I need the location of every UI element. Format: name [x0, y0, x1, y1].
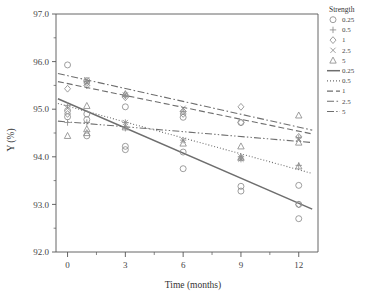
legend-label-line-0.5: 0.5	[342, 77, 351, 85]
legend-label-line-1: 1	[342, 87, 346, 95]
chart-container: 92.093.094.095.096.097.0 036912 Time (mo…	[0, 0, 385, 297]
legend-label-line-5: 5	[342, 108, 346, 116]
x-tick-label: 0	[65, 260, 70, 270]
legend-label-marker-2.5: 2.5	[342, 47, 351, 55]
y-tick-label: 95.0	[33, 104, 49, 114]
y-tick-label: 97.0	[33, 9, 49, 19]
y-axis-title: Y (%)	[6, 128, 17, 151]
x-tick-label: 3	[123, 260, 128, 270]
x-axis-title: Time (months)	[165, 280, 221, 291]
legend-label-marker-1: 1	[342, 36, 346, 44]
x-tick-label: 6	[181, 260, 186, 270]
y-tick-label: 92.0	[33, 247, 49, 257]
x-tick-label: 9	[239, 260, 244, 270]
y-tick-label: 93.0	[33, 200, 49, 210]
legend-label-marker-0.25: 0.25	[342, 16, 355, 24]
legend-label-marker-5: 5	[342, 57, 346, 65]
legend-label-line-0.25: 0.25	[342, 67, 355, 75]
y-tick-label: 96.0	[33, 57, 49, 67]
legend-label-marker-0.5: 0.5	[342, 26, 351, 34]
x-tick-label: 12	[294, 260, 303, 270]
y-tick-label: 94.0	[33, 152, 49, 162]
legend-label-line-2.5: 2.5	[342, 98, 351, 106]
legend-title: Strength	[329, 5, 355, 14]
scatter-plot: 92.093.094.095.096.097.0 036912 Time (mo…	[0, 0, 385, 297]
